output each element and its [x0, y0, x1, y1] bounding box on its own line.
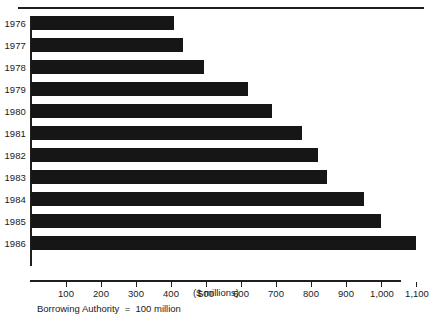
y-tick-label: 1982: [0, 150, 26, 161]
y-tick-label: 1983: [0, 172, 26, 183]
bar-1979: [31, 82, 248, 96]
y-tick-label: 1979: [0, 84, 26, 95]
bar-1982: [31, 148, 318, 162]
y-tick-label: 1977: [0, 40, 26, 51]
y-tick-label: 1978: [0, 62, 26, 73]
y-axis-line: [30, 16, 32, 266]
y-tick-label: 1981: [0, 128, 26, 139]
y-tick-label: 1976: [0, 18, 26, 29]
plot-area: 1976 1977 1978 1979 1980 1981 1982 1983: [0, 14, 432, 266]
y-tick-label: 1980: [0, 106, 26, 117]
x-axis-title: ($ millions): [0, 287, 432, 298]
y-tick-label: 1986: [0, 238, 26, 249]
bar-1983: [31, 170, 327, 184]
bar-chart-figure: 1976 1977 1978 1979 1980 1981 1982 1983: [0, 0, 432, 318]
bar-1978: [31, 60, 204, 74]
bar-1985: [31, 214, 381, 228]
bar-1977: [31, 38, 183, 52]
bar-1984: [31, 192, 364, 206]
y-tick-label: 1984: [0, 194, 26, 205]
bar-1986: [31, 236, 416, 250]
chart-caption: Borrowing Authority = 100 million: [37, 303, 181, 314]
y-tick-label: 1985: [0, 216, 26, 227]
bar-1976: [31, 16, 174, 30]
bar-1980: [31, 104, 272, 118]
bar-1981: [31, 126, 302, 140]
top-divider-rule: [18, 7, 424, 9]
